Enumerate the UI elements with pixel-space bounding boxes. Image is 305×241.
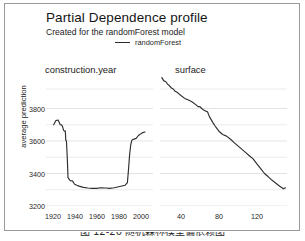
panel-surface: [160, 76, 287, 206]
curve-randomforest-surface: [162, 78, 286, 189]
legend-label-randomforest: randomForest: [135, 38, 181, 47]
panel-title-surface: surface: [175, 64, 206, 75]
y-tick-3400: 3400: [29, 169, 45, 178]
figure-caption-text: 图 12-20 随机森林模型偏依赖图: [80, 232, 225, 238]
panel-construction-year-plot: [46, 76, 153, 206]
x-tick-120: 120: [251, 212, 263, 221]
y-tick-3800: 3800: [29, 104, 45, 113]
figure-frame: Partial Dependence profile Created for t…: [4, 3, 300, 231]
x-tick-1920: 1920: [45, 212, 61, 221]
curve-randomforest-construction-year: [54, 120, 145, 188]
partial-dependence-figure: Partial Dependence profile Created for t…: [0, 0, 305, 241]
x-tick-1940: 1940: [67, 212, 83, 221]
legend: randomForest: [115, 38, 181, 47]
x-tick-1960: 1960: [89, 212, 105, 221]
x-tick-80: 80: [215, 212, 223, 221]
y-tick-3200: 3200: [29, 202, 45, 211]
figure-caption: 图 12-20 随机森林模型偏依赖图: [0, 232, 305, 241]
x-axis-ticks: 1920 1940 1960 1980 2000 40 80 120: [5, 212, 300, 226]
legend-line-icon: [115, 42, 130, 43]
gridlines-right: [160, 89, 287, 206]
figure-title: Partial Dependence profile: [46, 10, 208, 25]
y-tick-3600: 3600: [29, 137, 45, 146]
panel-title-construction-year: construction.year: [45, 64, 116, 75]
panel-construction-year: [46, 76, 153, 206]
figure-subtitle: Created for the randomForest model: [46, 27, 185, 37]
x-tick-40: 40: [177, 212, 185, 221]
x-tick-2000: 2000: [133, 212, 149, 221]
y-axis-ticks: 3200 3400 3600 3800: [19, 4, 45, 231]
x-tick-1980: 1980: [111, 212, 127, 221]
panel-surface-plot: [160, 76, 287, 206]
